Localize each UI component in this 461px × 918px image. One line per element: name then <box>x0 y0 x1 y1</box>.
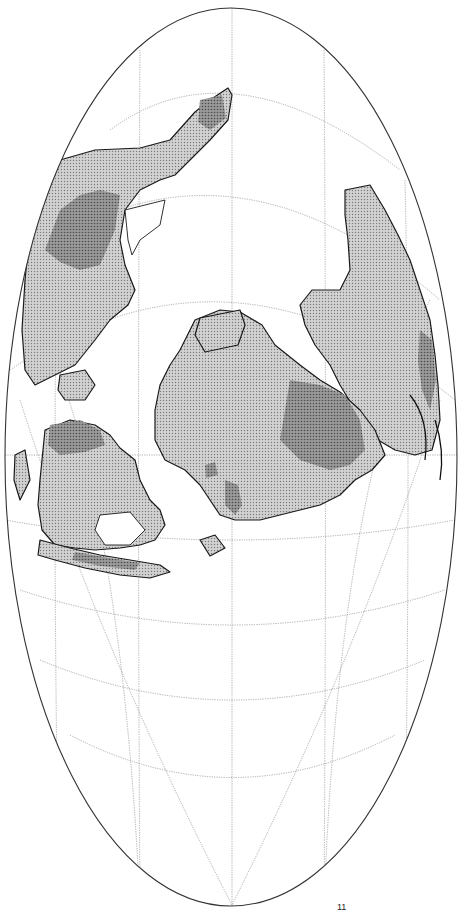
landmasses <box>6 88 441 700</box>
world-map <box>0 0 461 918</box>
landmass-central-north-block <box>195 310 245 352</box>
corner-mark: 11 <box>337 902 346 912</box>
shelf-north <box>125 200 165 255</box>
